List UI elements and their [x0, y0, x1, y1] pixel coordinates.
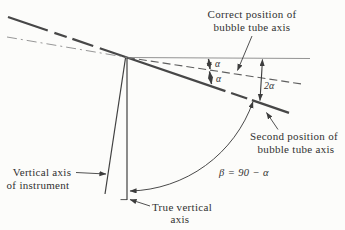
two-alpha-dimension-arrow — [260, 60, 263, 101]
true-vertical-label-line2: axis — [171, 213, 190, 225]
correct-position-label-line2: bubble tube axis — [214, 21, 291, 33]
true-vertical-leader-arrow — [130, 200, 150, 207]
leveling-diagram: Correct position of bubble tube axis Sec… — [0, 0, 345, 230]
alpha-upper-dimension-arrow — [209, 59, 211, 69]
beta-equation-label: β = 90 − α — [218, 167, 269, 178]
true-vertical-label-line1: True vertical — [152, 201, 212, 213]
two-alpha-label: 2α — [264, 80, 275, 91]
instrument-vertical-axis-line — [105, 58, 126, 194]
correct-position-label-line1: Correct position of — [208, 8, 297, 20]
diagram-canvas: Correct position of bubble tube axis Sec… — [0, 0, 345, 230]
instrument-axis-label-line1: Vertical axis — [13, 166, 72, 178]
bubble-axis-upper-left-dashed-line — [8, 17, 127, 58]
second-position-label-line2: bubble tube axis — [258, 143, 335, 155]
second-position-label-line1: Second position of — [250, 130, 338, 142]
instrument-axis-label-line2: of instrument — [7, 179, 70, 191]
instrument-axis-leader-arrow — [76, 173, 106, 175]
second-position-leader-arrow — [267, 113, 279, 130]
correct-position-leader-arrow — [238, 36, 253, 71]
alpha-lower-dimension-arrow — [210, 72, 212, 85]
alpha-lower-label: α — [216, 73, 222, 84]
alpha-upper-label: α — [215, 58, 221, 69]
dash-dot-axis-extension-line — [7, 37, 132, 58]
